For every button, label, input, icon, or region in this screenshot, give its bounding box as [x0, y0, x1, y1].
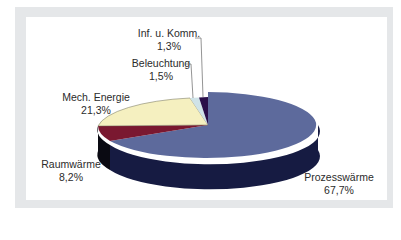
label-inf-komm: Inf. u. Komm. 1,3%	[137, 27, 201, 53]
label-mech-energie: Mech. Energie 21,3%	[62, 91, 130, 117]
label-beleuchtung: Beleuchtung 1,5%	[130, 57, 192, 83]
label-prozesswaerme: Prozesswärme 67,7%	[303, 171, 375, 197]
label-raumwaerme: Raumwärme 8,2%	[40, 158, 102, 184]
